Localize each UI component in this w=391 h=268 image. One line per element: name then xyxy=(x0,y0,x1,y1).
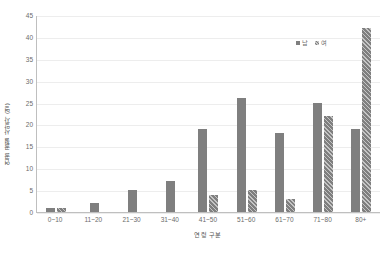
bar xyxy=(90,203,99,212)
legend-item-label: 여 xyxy=(321,40,327,46)
bar xyxy=(351,129,360,212)
x-axis-tick-label: 51~60 xyxy=(227,216,265,223)
bar xyxy=(237,98,246,212)
legend: 남여 xyxy=(296,40,327,46)
bar-group xyxy=(151,16,189,212)
bar xyxy=(286,199,295,212)
y-axis-tick-label: 35 xyxy=(26,57,33,64)
x-axis-tick-label: 31~40 xyxy=(151,216,189,223)
bar-group xyxy=(189,16,227,212)
y-axis-tick-label: 30 xyxy=(26,78,33,85)
y-axis-tick-label: 40 xyxy=(26,35,33,42)
y-axis-tick-label: 0 xyxy=(29,210,33,217)
legend-item[interactable]: 남 xyxy=(296,40,308,46)
bar xyxy=(313,103,322,212)
x-axis-title: 연령 구분 xyxy=(36,230,380,239)
legend-item[interactable]: 여 xyxy=(315,40,327,46)
x-axis-tick-label: 61~70 xyxy=(265,216,303,223)
y-axis-tick-label: 15 xyxy=(26,144,33,151)
bar xyxy=(198,129,207,212)
bar xyxy=(166,181,175,212)
plot-area: 051015202530354045 xyxy=(36,16,380,213)
bar-chart: 051015202530354045 연골 골절 사망자 (명) 0~1011~… xyxy=(0,0,391,268)
x-axis-tick-label: 0~10 xyxy=(36,216,74,223)
x-axis-tick-label: 21~30 xyxy=(112,216,150,223)
bar xyxy=(324,116,333,212)
y-axis-tick-label: 5 xyxy=(29,188,33,195)
solid-gray-swatch xyxy=(296,41,300,45)
gridline xyxy=(37,213,380,214)
bar-group xyxy=(342,16,380,212)
x-axis-tick-label: 11~20 xyxy=(74,216,112,223)
bar xyxy=(362,28,371,212)
y-axis-tick-label: 10 xyxy=(26,166,33,173)
bar xyxy=(209,195,218,213)
bar xyxy=(46,208,55,212)
x-axis-tick-label: 80+ xyxy=(342,216,380,223)
bar-group xyxy=(228,16,266,212)
bar-group xyxy=(75,16,113,212)
y-axis-tick-label: 25 xyxy=(26,100,33,107)
bar xyxy=(57,208,66,212)
bar-group xyxy=(37,16,75,212)
bar-groups xyxy=(37,16,380,212)
y-axis-title: 연골 골절 사망자 (명) xyxy=(2,103,11,165)
y-axis-tick-label: 45 xyxy=(26,13,33,20)
legend-item-label: 남 xyxy=(302,40,308,46)
x-axis-tick-label: 71~80 xyxy=(304,216,342,223)
x-axis-ticks: 0~1011~2021~3031~4041~5051~6061~7071~808… xyxy=(36,216,380,223)
hatched-gray-swatch xyxy=(315,41,319,45)
bar-group xyxy=(113,16,151,212)
bar xyxy=(248,190,257,212)
bar xyxy=(128,190,137,212)
bar xyxy=(275,133,284,212)
y-axis-tick-label: 20 xyxy=(26,122,33,129)
x-axis-tick-label: 41~50 xyxy=(189,216,227,223)
